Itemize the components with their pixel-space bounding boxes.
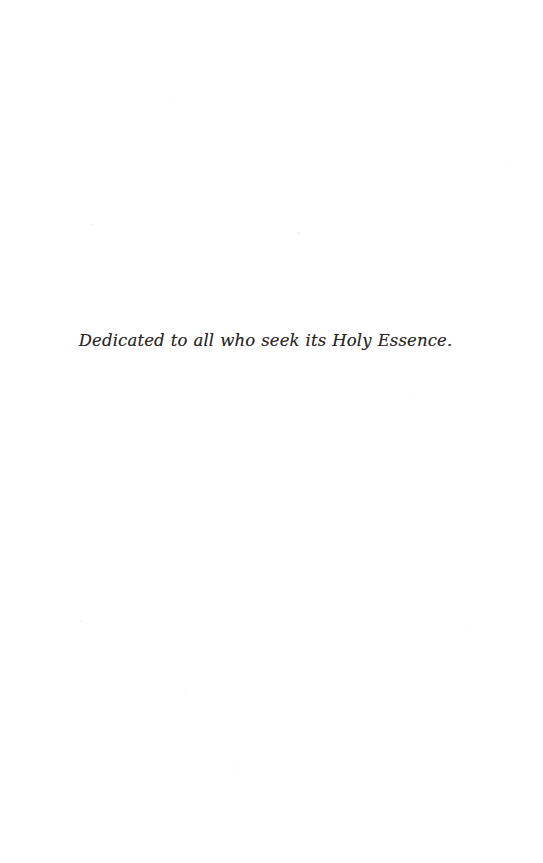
dedication-block: Dedicated to all who seek its Holy Essen…: [0, 330, 543, 352]
dedication-text: Dedicated to all who seek its Holy Essen…: [79, 330, 453, 352]
dedication-page: Dedicated to all who seek its Holy Essen…: [0, 0, 543, 863]
